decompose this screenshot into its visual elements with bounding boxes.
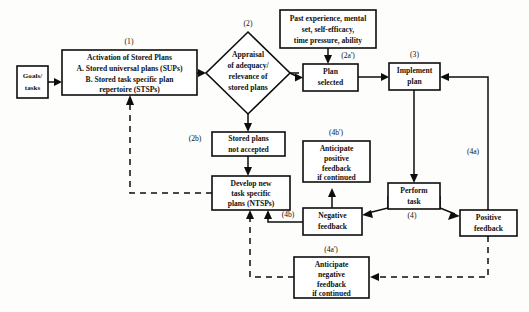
node-goals-tasks: Goals/ tasks [17, 66, 48, 98]
node-activation-line-1: A. Stored universal plans (SUPs) [77, 64, 183, 73]
node-appraisal-diamond: (2) Appraisal of adequacy/ relevance of … [206, 19, 290, 114]
node-anticipate-negative-feedback: (4a') Anticipate negative feedback if co… [294, 245, 369, 298]
node-anticipate-negative-line-3: if continued [312, 289, 351, 298]
node-plan-selected-line-1: selected [318, 78, 344, 87]
edge-positive-to-implement-4a [440, 73, 488, 210]
node-anticipate-positive-line-0: Anticipate [320, 144, 354, 153]
step-label-4b-prime: (4b') [329, 128, 343, 137]
node-develop-new-line-2: plans (NTSPs) [228, 199, 275, 208]
edge-perform-to-negative-feedback [362, 196, 388, 218]
node-anticipate-positive-line-2: feedback [322, 164, 352, 173]
node-implement-plan: (3) Implement plan [389, 50, 440, 90]
node-develop-new-plans: Develop new task specific plans (NTSPs) [212, 176, 290, 210]
node-anticipate-negative-line-1: negative [318, 270, 346, 279]
step-label-3: (3) [410, 50, 419, 59]
node-stored-not-accepted-line-0: Stored plans [228, 134, 269, 143]
step-label-4b: (4b) [282, 210, 295, 219]
flowchart-diagram: Goals/ tasks (1) Activation of Stored Pl… [0, 0, 529, 312]
node-stored-plans-not-accepted: (2b) Stored plans not accepted [189, 132, 285, 156]
edge-appraisal-to-stored-not-accepted [244, 114, 252, 132]
edge-influences-to-plan-selected [324, 48, 332, 64]
step-label-4a: (4a) [467, 147, 480, 156]
edge-perform-to-positive-feedback [440, 196, 460, 220]
edge-appraisal-to-plan-selected [290, 73, 303, 82]
edge-positive-to-anticipate-negative-dashed [370, 236, 488, 281]
step-label-4a-prime: (4a') [324, 245, 338, 254]
node-influences-line-1: set, self-efficacy, [302, 25, 355, 34]
node-plan-selected-line-0: Plan [323, 67, 339, 76]
node-positive-feedback-line-1: feedback [474, 224, 504, 233]
edge-anticipate-negative-to-develop-dashed [246, 210, 294, 277]
edge-implement-to-perform [410, 90, 418, 183]
step-label-1: (1) [125, 37, 134, 46]
node-negative-feedback-line-0: Negative [318, 211, 347, 220]
node-negative-feedback-line-1: feedback [318, 222, 348, 231]
node-influences-line-0: Past experience, mental [290, 14, 367, 23]
edge-plan-selected-to-implement [358, 73, 389, 81]
node-implement-plan-line-0: Implement [397, 66, 433, 75]
node-anticipate-negative-line-0: Anticipate [315, 260, 349, 269]
edge-goals-to-activation [48, 78, 62, 86]
node-anticipate-positive-line-1: positive [324, 154, 350, 163]
node-influences: Past experience, mental set, self-effica… [280, 10, 376, 48]
node-activation-line-2: B. Stored task specific plan [86, 75, 175, 84]
node-appraisal-line-1: of adequacy/ [227, 61, 269, 70]
node-influences-line-2: time pressure, ability [294, 36, 362, 45]
node-perform-task-line-1: task [407, 197, 421, 206]
node-goals-tasks-line-1: tasks [25, 84, 41, 92]
step-label-2: (2) [244, 19, 253, 28]
node-activation-line-0: Activation of Stored Plans [87, 53, 172, 62]
node-anticipate-positive-feedback: (4b') Anticipate positive feedback if co… [303, 128, 370, 182]
edge-stored-not-accepted-to-develop [244, 155, 252, 176]
flowchart-canvas: Goals/ tasks (1) Activation of Stored Pl… [0, 0, 529, 312]
edge-negative-to-anticipate-positive [328, 188, 336, 208]
node-develop-new-line-0: Develop new [230, 179, 272, 188]
node-appraisal-line-3: stored plans [228, 83, 267, 92]
node-anticipate-positive-line-3: if continued [317, 173, 356, 182]
node-appraisal-line-2: relevance of [229, 72, 268, 81]
node-activation-line-3: repertoire (STSPs) [99, 85, 160, 94]
node-perform-task-line-0: Perform [400, 186, 428, 195]
node-stored-not-accepted-line-1: not accepted [228, 145, 269, 154]
edge-activation-to-appraisal [197, 69, 206, 77]
node-perform-task: Perform task (4) [388, 183, 440, 220]
step-label-2a: (2a') [341, 51, 355, 60]
node-anticipate-negative-line-2: feedback [317, 280, 347, 289]
edge-develop-to-activation-dashed [126, 95, 212, 193]
step-label-4: (4) [408, 211, 417, 220]
node-positive-feedback-line-0: Positive [476, 213, 502, 222]
node-develop-new-line-1: task specific [231, 189, 271, 198]
node-appraisal-line-0: Appraisal [232, 50, 264, 59]
node-goals-tasks-line-0: Goals/ [23, 72, 43, 80]
node-implement-plan-line-1: plan [407, 77, 422, 86]
node-activation-stored-plans: (1) Activation of Stored Plans A. Stored… [62, 37, 197, 95]
step-label-2b: (2b) [189, 134, 202, 143]
